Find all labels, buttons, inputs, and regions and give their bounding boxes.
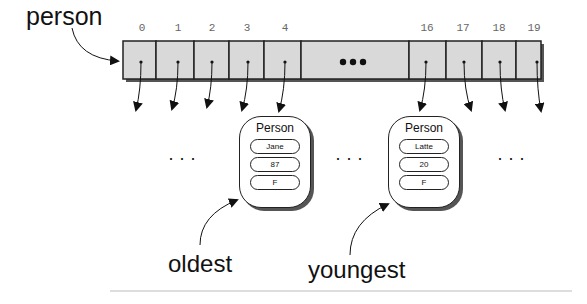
index-label: 18 [479,22,519,34]
index-label: 16 [407,22,447,34]
array-name-label: person [26,2,102,31]
field-age: 87 [250,157,300,172]
field-gender: F [399,175,449,190]
person-object-youngest: Person Latte 20 F [388,116,460,208]
field-gender: F [250,175,300,190]
object-title: Person [240,121,310,135]
gap-ellipsis: · · · [335,148,363,169]
index-label: 4 [265,22,305,34]
youngest-label: youngest [308,256,405,284]
array-ellipsis-icon [340,59,366,65]
person-object-oldest: Person Jane 87 F [239,116,311,208]
field-name: Jane [250,139,300,154]
oldest-label: oldest [168,250,232,278]
index-label: 19 [514,22,554,34]
field-name: Latte [399,139,449,154]
index-label: 3 [227,22,267,34]
array-cells [123,41,541,79]
index-label: 2 [192,22,232,34]
index-label: 17 [443,22,483,34]
gap-ellipsis: · · · [168,148,196,169]
index-label: 0 [122,22,162,34]
gap-ellipsis: · · · [497,148,525,169]
field-age: 20 [399,157,449,172]
object-title: Person [389,121,459,135]
